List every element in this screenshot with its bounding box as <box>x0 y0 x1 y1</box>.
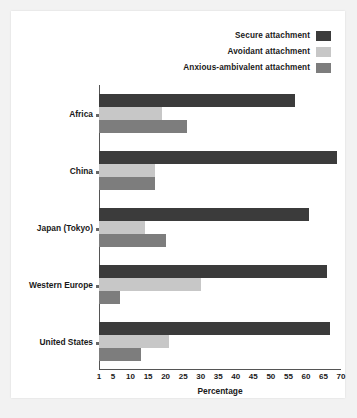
x-tick-label: 70 <box>337 372 346 381</box>
anxious-swatch-icon <box>316 63 331 73</box>
bar-group: Africa <box>99 92 341 136</box>
bar-group: China <box>99 149 341 193</box>
legend-label-avoidant: Avoidant attachment <box>227 45 310 58</box>
x-tick-label: 40 <box>231 372 240 381</box>
x-axis-title: Percentage <box>99 386 341 396</box>
y-axis-tick <box>96 285 99 288</box>
bar <box>99 348 141 361</box>
bar <box>99 278 201 291</box>
x-tick-label: 30 <box>196 372 205 381</box>
bar-group: Japan (Tokyo) <box>99 206 341 250</box>
x-tick-label: 65 <box>319 372 328 381</box>
bar <box>99 265 327 278</box>
bar-groups: AfricaChinaJapan (Tokyo)Western EuropeUn… <box>99 85 341 370</box>
bar <box>99 107 162 120</box>
x-tick-label: 10 <box>126 372 135 381</box>
bar <box>99 234 166 247</box>
bar <box>99 164 155 177</box>
category-label: United States <box>39 337 93 347</box>
x-tick-label: 50 <box>266 372 275 381</box>
bar <box>99 151 337 164</box>
x-tick-label: 35 <box>214 372 223 381</box>
y-axis-tick <box>96 342 99 345</box>
secure-swatch-icon <box>316 31 331 41</box>
chart-legend: Secure attachment Avoidant attachment An… <box>183 29 331 74</box>
x-tick-label: 45 <box>249 372 258 381</box>
chart-card: Secure attachment Avoidant attachment An… <box>11 11 345 398</box>
legend-label-secure: Secure attachment <box>235 29 310 42</box>
chart-page: Secure attachment Avoidant attachment An… <box>0 0 357 418</box>
bar <box>99 291 120 304</box>
category-label: China <box>70 166 93 176</box>
plot-area: AfricaChinaJapan (Tokyo)Western EuropeUn… <box>99 85 341 370</box>
bar <box>99 120 187 133</box>
x-tick-label: 25 <box>179 372 188 381</box>
y-axis-tick <box>96 228 99 231</box>
x-tick-label: 1 <box>97 372 101 381</box>
category-label: Japan (Tokyo) <box>37 223 93 233</box>
category-label: Africa <box>69 109 93 119</box>
bar <box>99 322 330 335</box>
bar <box>99 208 309 221</box>
avoidant-swatch-icon <box>316 47 331 57</box>
x-tick-label: 15 <box>144 372 153 381</box>
legend-label-anxious: Anxious-ambivalent attachment <box>183 61 310 74</box>
x-axis-ticks: 1510152025303540455055606570 <box>99 372 341 384</box>
legend-item-secure: Secure attachment <box>235 29 331 42</box>
category-label: Western Europe <box>29 280 93 290</box>
legend-item-avoidant: Avoidant attachment <box>227 45 331 58</box>
bar <box>99 221 145 234</box>
bar <box>99 335 169 348</box>
x-tick-label: 20 <box>161 372 170 381</box>
x-tick-label: 5 <box>111 372 115 381</box>
bar <box>99 94 295 107</box>
y-axis-tick <box>96 171 99 174</box>
x-tick-label: 60 <box>301 372 310 381</box>
bar-group: United States <box>99 320 341 364</box>
x-tick-label: 55 <box>284 372 293 381</box>
bar-group: Western Europe <box>99 263 341 307</box>
bar <box>99 177 155 190</box>
y-axis-tick <box>96 114 99 117</box>
legend-item-anxious: Anxious-ambivalent attachment <box>183 61 331 74</box>
